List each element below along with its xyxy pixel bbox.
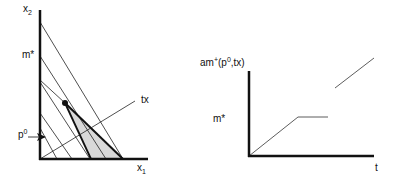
ramp-segment: [249, 117, 298, 156]
y-axis-label-x2: x2: [23, 4, 32, 14]
y-axis-label-am: am+(p0,tx): [200, 58, 245, 68]
x-axis-label-t: t: [375, 163, 378, 173]
x-axis-label-x1: x1: [137, 163, 146, 173]
budget-line-6: [40, 128, 57, 159]
diagram-canvas: [0, 0, 394, 183]
m-star-label-right: m*: [213, 114, 225, 124]
m-star-label-left: m*: [22, 50, 34, 60]
optimum-point: [62, 100, 68, 106]
left-budget-diagram: [28, 10, 148, 160]
right-am-diagram: [248, 58, 374, 157]
budget-line-m-star: [40, 56, 106, 159]
upper-segment: [335, 58, 374, 88]
tx-label: tx: [141, 95, 149, 105]
p0-label: p0: [18, 130, 27, 140]
budget-line-3: [40, 80, 65, 103]
